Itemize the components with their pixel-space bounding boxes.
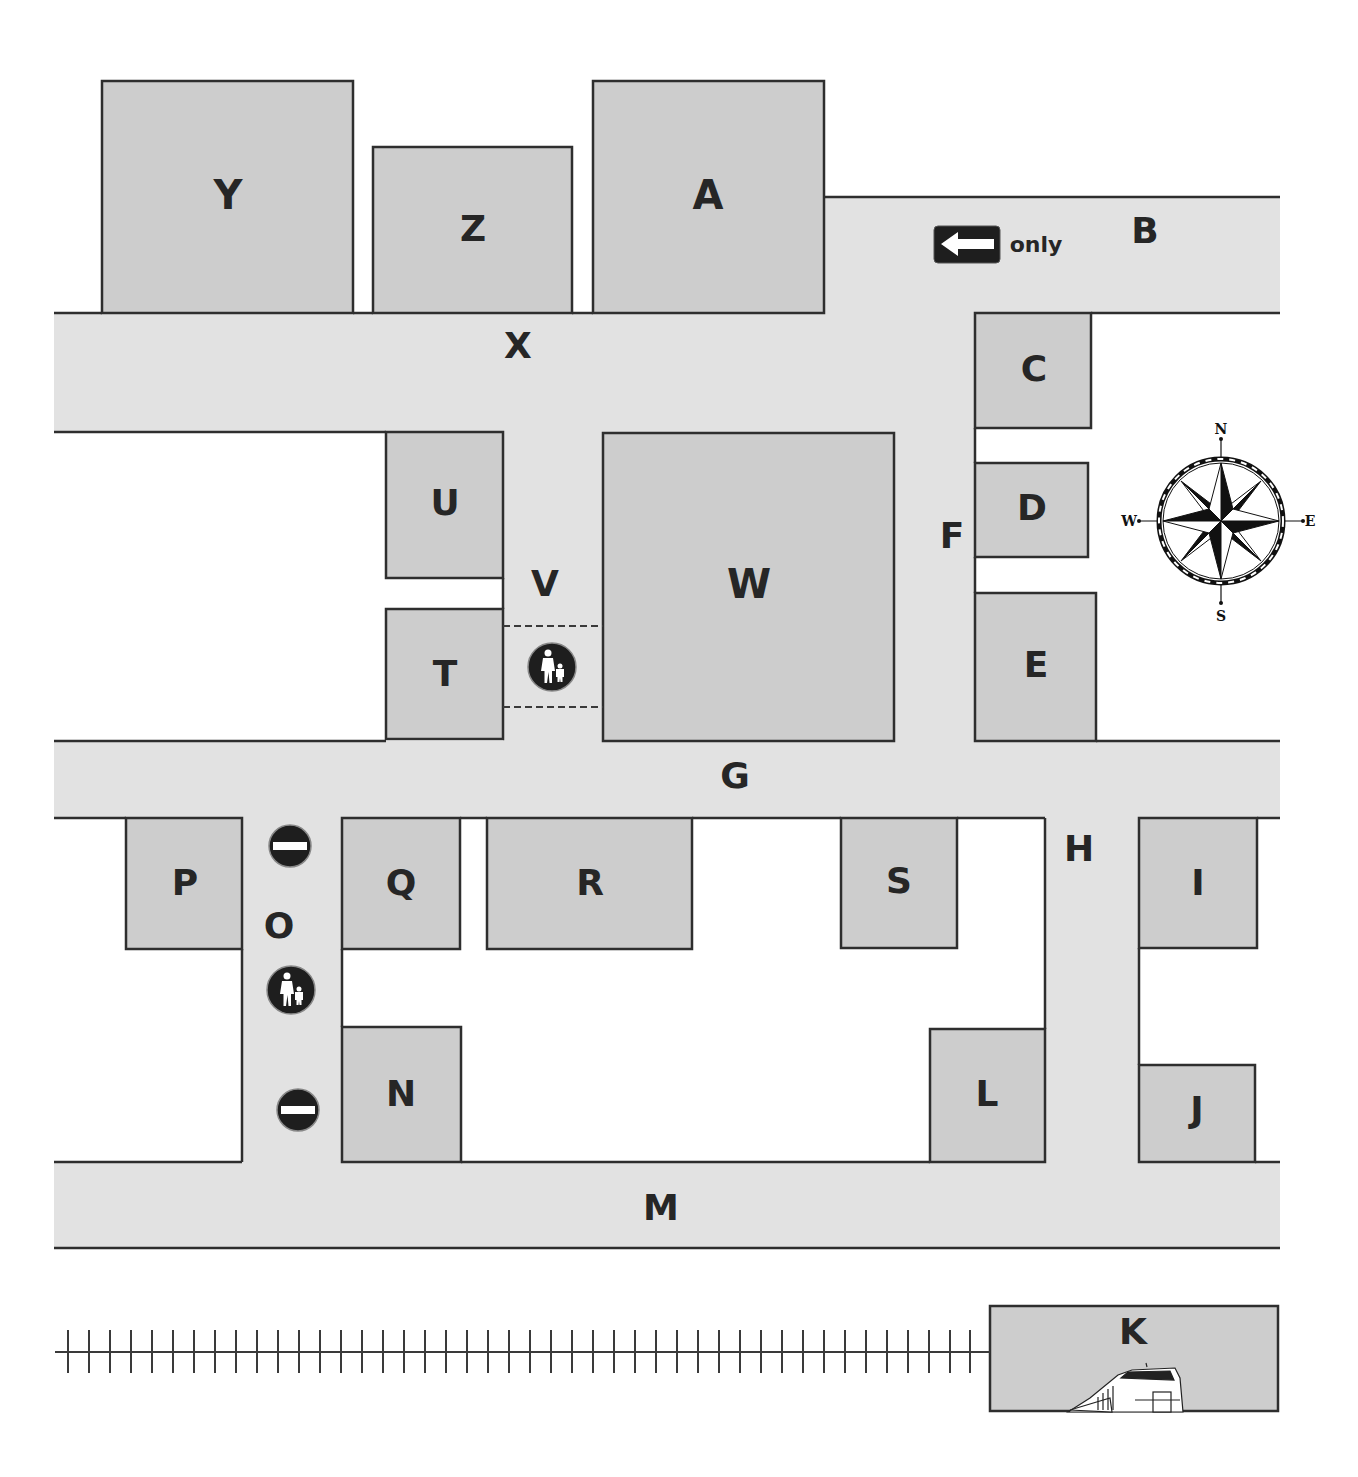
label-s: S <box>886 860 912 901</box>
label-road-m: M <box>643 1187 679 1228</box>
label-k: K <box>1119 1311 1148 1352</box>
label-road-v: V <box>531 563 559 604</box>
no-entry-sign-south <box>277 1089 319 1131</box>
no-entry-sign-north <box>269 825 311 867</box>
pedestrian-sign-o <box>267 966 315 1014</box>
label-t: T <box>433 653 458 694</box>
label-p: P <box>172 862 198 903</box>
no-entry-icon <box>273 842 307 850</box>
label-r: R <box>576 862 604 903</box>
road-g <box>54 741 1280 818</box>
label-road-b: B <box>1131 210 1158 251</box>
label-road-f: F <box>940 515 965 556</box>
compass-west: W <box>1120 513 1137 529</box>
label-road-o: O <box>264 905 295 946</box>
pedestrian-sign-v <box>528 643 576 691</box>
railway-track <box>55 1330 990 1373</box>
compass-east: E <box>1305 513 1316 529</box>
label-l: L <box>976 1073 999 1114</box>
label-q: Q <box>386 862 417 903</box>
label-w: W <box>727 561 771 607</box>
label-a: A <box>693 172 724 218</box>
compass-north: N <box>1215 421 1228 437</box>
compass-rose: N S E W <box>1120 421 1315 624</box>
label-e: E <box>1024 644 1049 685</box>
label-u: U <box>430 482 459 523</box>
label-c: C <box>1021 348 1047 389</box>
label-road-g: G <box>720 755 750 796</box>
road-h <box>1045 818 1139 1162</box>
label-j: J <box>1187 1089 1203 1130</box>
town-map: Y Z A C D E U T W P Q R S I N L J K B X … <box>0 0 1358 1477</box>
compass-south: S <box>1216 608 1226 624</box>
label-z: Z <box>460 208 486 249</box>
label-road-x: X <box>504 325 532 366</box>
label-i: I <box>1191 862 1204 903</box>
label-road-h: H <box>1064 828 1094 869</box>
no-entry-icon <box>281 1106 315 1114</box>
label-y: Y <box>213 172 244 218</box>
one-way-text: only <box>1010 232 1063 257</box>
label-n: N <box>386 1073 416 1114</box>
label-d: D <box>1017 487 1047 528</box>
